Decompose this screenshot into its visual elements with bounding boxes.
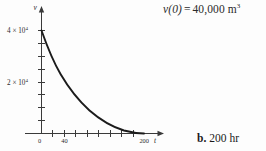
x-axis-arrow-icon <box>158 131 165 136</box>
equation-value: 40,000 m <box>193 3 237 15</box>
chart-plot-area: 4 × 104 2 × 104 0 40 200 v t <box>0 0 180 151</box>
equation-equals-sign: = <box>182 3 193 15</box>
x-tick-label-200: 200 <box>139 137 149 144</box>
x-tick-label-0: 0 <box>38 137 41 144</box>
answer-line: b.200 hr <box>197 131 239 145</box>
equation-variable: v(0) <box>163 3 182 15</box>
answer-value: 200 hr <box>206 132 239 144</box>
x-tick-label-40: 40 <box>61 137 67 144</box>
answer-label: b. <box>197 132 206 144</box>
y-axis-name: v <box>34 3 38 12</box>
equation-annotation: v(0)=40,000 m3 <box>163 2 266 16</box>
figure-root: 4 × 104 2 × 104 0 40 200 v t v(0)=40,000… <box>0 0 266 151</box>
exponential-decay-chart: 4 × 104 2 × 104 0 40 200 v t <box>0 0 180 151</box>
y-tick-label-20000: 2 × 104 <box>7 78 28 87</box>
x-axis-name: t <box>154 136 157 145</box>
decay-curve <box>42 31 145 134</box>
y-tick-label-40000: 4 × 104 <box>7 26 28 35</box>
y-axis-arrow-icon <box>39 6 44 13</box>
equation-unit-exponent: 3 <box>237 2 241 10</box>
